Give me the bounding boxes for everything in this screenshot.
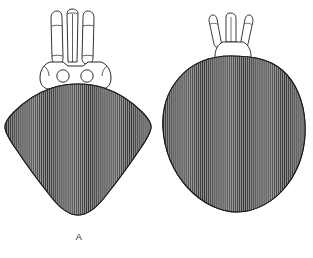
figure-b-drawing <box>155 0 313 232</box>
figure-b-caption: B <box>310 232 313 242</box>
capitulum <box>40 9 111 89</box>
porose-area-right <box>81 70 93 82</box>
porose-area-left <box>57 70 69 82</box>
figure-a-caption: A <box>0 232 158 242</box>
scutum <box>0 80 158 220</box>
figure-a-drawing <box>0 0 158 232</box>
figure-b: B <box>155 0 313 258</box>
figure-a: A <box>0 0 158 258</box>
hypostome <box>67 9 78 62</box>
idiosoma <box>155 50 313 220</box>
palp-right <box>82 11 94 64</box>
palp-left <box>209 15 221 47</box>
palp-left <box>51 11 63 64</box>
figure-plate: A <box>0 0 313 258</box>
hypostome <box>226 13 236 42</box>
